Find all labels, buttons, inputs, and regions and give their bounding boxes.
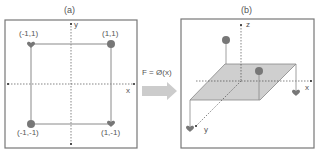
panel-b [181,19,314,148]
circle-icon [255,67,263,75]
diagram-canvas [0,0,319,156]
point-label: (-1,-1) [17,128,39,137]
transform-arrow [142,82,177,100]
panel-a-title: (a) [64,5,75,15]
point-label: (1,1) [102,29,118,38]
x-axis-label: x [126,86,130,95]
circle-icon [107,40,115,48]
heart-icon [27,42,35,48]
transform-label: F = Ø(x) [142,68,172,77]
plane [190,64,296,100]
z-axis-label: z [246,20,250,29]
point-label: (1,-1) [101,128,120,137]
arrow-icon [142,82,177,100]
panel-b-title: (b) [241,5,252,15]
point-label: (-1,1) [19,29,38,38]
circle-icon [222,36,230,44]
circle-icon [27,120,35,128]
y-axis-label: y [74,20,78,29]
x-axis-label: x [305,83,309,92]
y-axis-label: y [204,125,208,134]
